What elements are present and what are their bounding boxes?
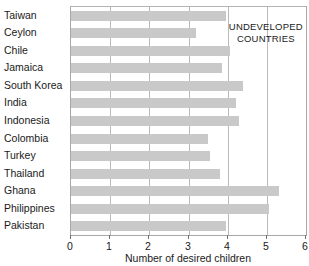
- annotation-line-2: COUNTRIES: [216, 33, 309, 45]
- category-label-ceylon: Ceylon: [4, 27, 37, 37]
- x-tick-label-0: 0: [67, 240, 73, 252]
- x-tick-label-6: 6: [302, 240, 308, 252]
- bar: [71, 46, 230, 56]
- x-tick-label-2: 2: [145, 240, 151, 252]
- x-tick-2: [148, 235, 149, 239]
- category-label-thailand: Thailand: [4, 168, 44, 178]
- x-tick-4: [227, 235, 228, 239]
- category-label-india: India: [4, 97, 27, 107]
- x-tick-label-1: 1: [106, 240, 112, 252]
- bar: [71, 151, 210, 161]
- category-axis-labels: TaiwanCeylonChileJamaicaSouth KoreaIndia…: [0, 0, 68, 234]
- bar: [71, 186, 279, 196]
- x-tick-label-5: 5: [263, 240, 269, 252]
- bar: [71, 81, 243, 91]
- category-label-philippines: Philippines: [4, 203, 55, 213]
- x-tick-1: [109, 235, 110, 239]
- category-label-south-korea: South Korea: [4, 80, 62, 90]
- bar: [71, 204, 269, 214]
- category-label-ghana: Ghana: [4, 185, 36, 195]
- x-tick-0: [70, 235, 71, 239]
- category-label-jamaica: Jamaica: [4, 62, 43, 72]
- x-tick-3: [188, 235, 189, 239]
- category-label-chile: Chile: [4, 45, 28, 55]
- bar: [71, 63, 222, 73]
- bar: [71, 134, 208, 144]
- bar: [71, 221, 226, 231]
- category-label-indonesia: Indonesia: [4, 115, 50, 125]
- x-tick-5: [266, 235, 267, 239]
- bar: [71, 116, 239, 126]
- category-label-taiwan: Taiwan: [4, 10, 37, 20]
- x-tick-6: [305, 235, 306, 239]
- bar-chart: TaiwanCeylonChileJamaicaSouth KoreaIndia…: [0, 0, 309, 266]
- bar: [71, 98, 236, 108]
- bar: [71, 169, 220, 179]
- x-axis-title: Number of desired children: [70, 252, 306, 264]
- x-tick-label-3: 3: [185, 240, 191, 252]
- x-tick-label-4: 4: [224, 240, 230, 252]
- undeveloped-countries-annotation: UNDEVELOPED COUNTRIES: [216, 21, 309, 44]
- bar: [71, 28, 196, 38]
- category-label-pakistan: Pakistan: [4, 220, 44, 230]
- category-label-colombia: Colombia: [4, 133, 48, 143]
- category-label-turkey: Turkey: [4, 150, 36, 160]
- annotation-line-1: UNDEVELOPED: [216, 21, 309, 33]
- bar: [71, 11, 226, 21]
